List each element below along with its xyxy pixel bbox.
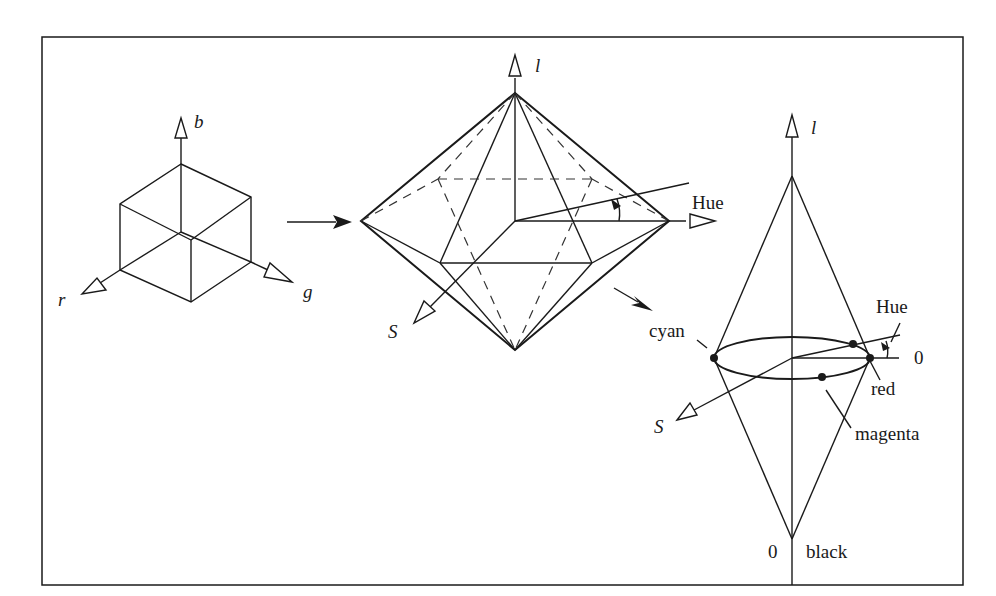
- transform-arrow-1: [287, 215, 352, 229]
- hue-axis-arrowhead-icon: [690, 214, 715, 228]
- arrow-diagonal-icon: [631, 296, 653, 311]
- black-label: black: [806, 541, 848, 562]
- s-axis-label-2: S: [654, 416, 664, 437]
- l-axis-arrowhead-icon-2: [786, 115, 798, 137]
- zero-hue-label: 0: [914, 347, 924, 368]
- l-axis-label-2: l: [811, 117, 816, 138]
- hue-label: Hue: [692, 192, 724, 213]
- hue-angle-arrow-icon-2: [881, 342, 890, 351]
- r-axis-arrowhead-icon: [82, 278, 106, 294]
- magenta-label: magenta: [855, 423, 920, 444]
- g-axis-arrowhead-icon: [264, 263, 292, 282]
- l-axis-arrowhead-icon: [509, 55, 521, 76]
- color-model-diagram: b r g: [0, 0, 996, 596]
- red-point: [866, 354, 874, 362]
- l-axis-label: l: [535, 55, 540, 76]
- rgb-cube: b r g: [58, 111, 313, 310]
- b-axis-label: b: [194, 111, 204, 132]
- s-axis-arrowhead-icon-2: [677, 403, 697, 420]
- r-axis-label: r: [58, 289, 66, 310]
- s-axis-label: S: [388, 321, 398, 342]
- g-axis-label: g: [303, 281, 313, 302]
- zero-black-label: 0: [768, 541, 778, 562]
- hexcone: l Hue S: [361, 55, 724, 350]
- hue-label-2: Hue: [876, 296, 908, 317]
- cyan-point: [710, 354, 718, 362]
- double-cone: l cyan Hue 0 red magenta S 0 black: [649, 115, 924, 585]
- b-axis-arrowhead-icon: [175, 118, 187, 138]
- hue-point: [849, 340, 857, 348]
- red-label: red: [871, 378, 896, 399]
- cyan-label: cyan: [649, 320, 685, 341]
- magenta-point: [818, 373, 826, 381]
- transform-arrow-2: [614, 288, 653, 311]
